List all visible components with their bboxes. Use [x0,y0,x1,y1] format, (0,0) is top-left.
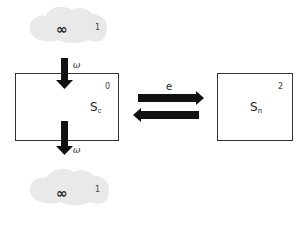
exchange-arrow-left [133,108,199,122]
stock-sn-label: Sn [250,100,262,115]
bottom-cloud-infinity-symbol: ∞ [56,186,68,200]
outflow-label: ω [73,146,80,155]
stock-sn-number: 2 [278,82,283,91]
stock-sn-label-main: S [250,100,258,114]
stock-sn: 2 Sn [217,73,293,141]
exchange-arrow-right [138,91,204,105]
stock-sc-label-main: S [90,100,98,114]
stock-sc-label: Sc [90,100,101,115]
inflow-label: ω [73,61,80,70]
stock-sc-number: 0 [105,82,110,91]
bottom-cloud-number: 1 [95,186,100,194]
stock-sc-label-sub: c [98,107,102,115]
top-cloud-infinity-symbol: ∞ [56,22,68,36]
stock-sn-label-sub: n [258,107,262,115]
exchange-label: e [166,82,172,92]
top-cloud-number: 1 [95,24,100,32]
stock-sc: 0 Sc [15,73,119,141]
